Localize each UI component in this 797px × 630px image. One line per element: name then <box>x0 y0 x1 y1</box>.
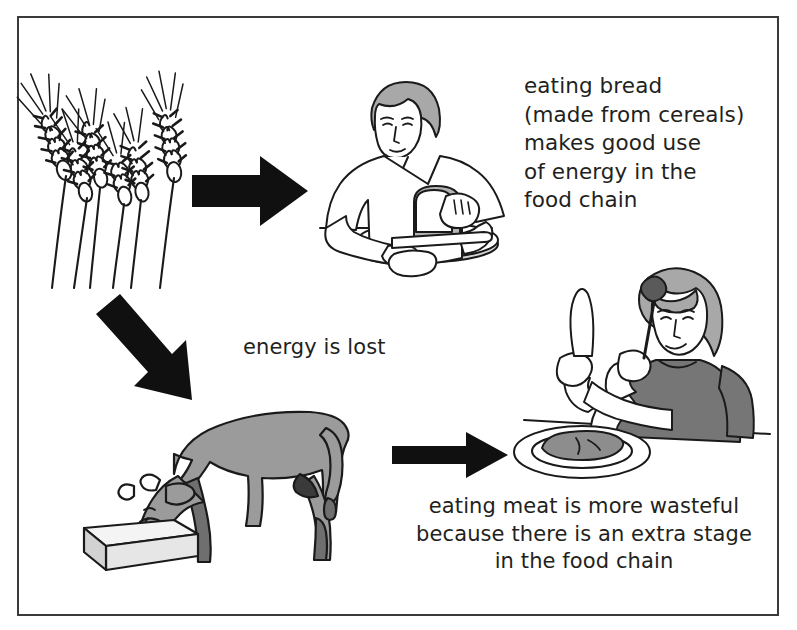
caption-eating-bread: eating bread (made from cereals) makes g… <box>524 72 744 215</box>
fork-food <box>641 276 666 301</box>
block-arrow-right <box>192 156 308 226</box>
knife <box>570 289 593 356</box>
person-slicing-bread-illustration <box>296 72 516 288</box>
cow-horn <box>118 484 134 499</box>
food-chain-diagram: eating bread (made from cereals) makes g… <box>0 0 797 630</box>
cow-horn <box>140 475 160 491</box>
tail-tuft <box>324 498 336 520</box>
caption-energy-is-lost: energy is lost <box>243 334 386 360</box>
steak <box>542 431 623 460</box>
caption-eating-meat: eating meat is more wasteful because the… <box>404 493 764 576</box>
person-eating-steak-illustration <box>478 262 778 498</box>
cow-eating-from-trough-illustration <box>78 382 378 572</box>
face <box>375 99 422 158</box>
wheat-group <box>12 66 197 288</box>
right-hand <box>440 193 479 228</box>
bread-slice <box>389 250 437 276</box>
wheat-ear <box>94 119 141 209</box>
